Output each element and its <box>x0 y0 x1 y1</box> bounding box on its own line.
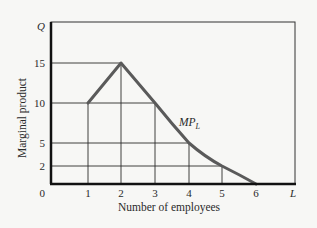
x-tick-4: 4 <box>186 187 192 199</box>
x-tick-2: 2 <box>118 187 124 199</box>
y-axis-symbol: Q <box>37 20 45 32</box>
x-axis-symbol: L <box>289 187 296 199</box>
y-tick-2: 2 <box>40 160 46 172</box>
y-tick-10: 10 <box>34 97 46 109</box>
x-tick-5: 5 <box>219 187 225 199</box>
x-tick-1: 1 <box>85 187 91 199</box>
x-axis-title: Number of employees <box>118 201 221 214</box>
origin-label: 0 <box>40 187 46 199</box>
x-tick-3: 3 <box>152 187 158 199</box>
y-axis-title: Marginal product <box>16 77 29 158</box>
series-label-main: MP <box>178 116 196 128</box>
y-tick-15: 15 <box>34 57 46 69</box>
x-tick-6: 6 <box>253 187 259 199</box>
marginal-product-chart: 15 10 5 2 Q 0 1 2 3 4 5 6 L Number of em… <box>0 0 317 228</box>
y-tick-5: 5 <box>40 137 46 149</box>
series-label-sub: L <box>195 122 201 131</box>
